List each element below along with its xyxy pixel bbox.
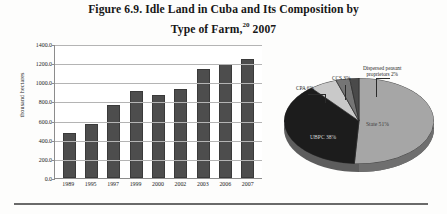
figure-title-year: 2007 — [250, 23, 277, 36]
pie-slice-callout-dispersed: Dispersed peasant proprietors 2% — [363, 65, 401, 78]
pie-chart-stage: State 51% UBPC 38% CPA 6% CCS 3% Dispers… — [280, 64, 438, 182]
bar-chart-y-tick — [52, 83, 55, 84]
bar-chart-gridline — [55, 102, 262, 103]
pie-slice-callout-ccs: CCS 3% — [332, 75, 350, 81]
bottom-divider — [14, 203, 428, 205]
bar-chart-y-tick-label: 200.0 — [39, 157, 52, 163]
bar-chart-y-tick-label: 1400.0 — [36, 42, 52, 48]
leader-line-ccs-vertical — [345, 85, 346, 100]
bar-chart-y-axis-labels: 0.0200.0400.0600.0800.01000.01200.01400.… — [16, 45, 52, 179]
bar-chart-y-tick-label: 1200.0 — [36, 61, 52, 67]
bar-chart-x-tick-label: 2002 — [169, 181, 191, 193]
bar-chart-x-tick-label: 1997 — [102, 181, 124, 193]
figure-title-line-2-text: Type of Farm, — [171, 23, 243, 36]
bar-2000[interactable] — [152, 95, 165, 178]
leader-line-cpa-horizontal — [308, 94, 326, 95]
bar-chart-gridline — [55, 45, 262, 46]
bar-chart-gridline — [55, 141, 262, 142]
figure-body: thousand hectares 0.0200.0400.0600.0800.… — [0, 36, 447, 196]
footnote-marker: 20 — [242, 21, 249, 29]
bar-chart-y-tick-label: 0.0 — [45, 176, 52, 182]
bar-chart-gridline — [55, 160, 262, 161]
bar-chart-gridline — [55, 83, 262, 84]
bar-chart-x-tick-label: 2003 — [192, 181, 214, 193]
leader-line-cpa-vertical — [325, 94, 326, 103]
bar-chart-y-tick — [52, 141, 55, 142]
bar-chart: thousand hectares 0.0200.0400.0600.0800.… — [6, 36, 268, 196]
leader-line-disp-vertical — [376, 78, 377, 97]
figure-title-line-1: Figure 6.9. Idle Land in Cuba and Its Co… — [0, 3, 447, 18]
bar-chart-y-tick-label: 800.0 — [39, 99, 52, 105]
bar-chart-y-tick-label: 400.0 — [39, 138, 52, 144]
bar-chart-x-axis-labels: 198919951997199920002002200320062007 — [54, 181, 262, 193]
bar-chart-x-tick-label: 2006 — [214, 181, 236, 193]
pie-chart: State 51% UBPC 38% CPA 6% CCS 3% Dispers… — [272, 36, 444, 196]
pie-slice-label-ubpc: UBPC 38% — [310, 134, 336, 140]
bar-chart-y-tick — [52, 179, 55, 180]
bar-chart-plot-area — [54, 45, 262, 179]
bar-chart-x-tick-label: 1989 — [57, 181, 79, 193]
figure-title-line-2: Type of Farm,20 2007 — [0, 18, 447, 38]
pie-callout-dispersed-line-1: Dispersed peasant — [363, 65, 401, 71]
figure-page: Figure 6.9. Idle Land in Cuba and Its Co… — [0, 0, 447, 214]
bar-chart-gridline — [55, 64, 262, 65]
bar-chart-gridline — [55, 122, 262, 123]
bar-chart-x-tick-label: 2007 — [237, 181, 259, 193]
bar-chart-x-tick-label: 2000 — [147, 181, 169, 193]
bar-chart-y-tick — [52, 160, 55, 161]
bar-1995[interactable] — [85, 124, 98, 178]
pie-slice-callout-cpa: CPA 6% — [296, 85, 314, 91]
bar-chart-y-tick — [52, 45, 55, 46]
bar-chart-x-tick-label: 1995 — [79, 181, 101, 193]
bar-1999[interactable] — [130, 91, 143, 178]
bar-chart-x-tick-label: 1999 — [124, 181, 146, 193]
bar-chart-y-tick-label: 1000.0 — [36, 80, 52, 86]
bar-2003[interactable] — [197, 69, 210, 178]
pie-slice-label-state: State 51% — [366, 121, 389, 127]
bar-chart-y-tick — [52, 122, 55, 123]
figure-title: Figure 6.9. Idle Land in Cuba and Its Co… — [0, 3, 447, 37]
bar-chart-y-tick — [52, 102, 55, 103]
leader-line-disp-horizontal — [376, 78, 390, 79]
bar-chart-y-tick — [52, 64, 55, 65]
bar-chart-y-tick-label: 600.0 — [39, 119, 52, 125]
pie-callout-dispersed-line-2: proprietors 2% — [366, 71, 398, 77]
